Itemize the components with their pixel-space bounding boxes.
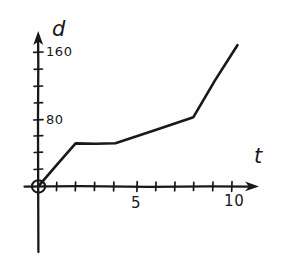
- y-tick-label-160: 160: [46, 44, 73, 59]
- x-axis-label: t: [254, 144, 263, 168]
- y-axis-group: [33, 31, 43, 252]
- graph-canvas: d t 160 80 5 10: [0, 0, 292, 277]
- hand-drawn-graph: [0, 0, 292, 277]
- y-axis-label: d: [52, 17, 66, 41]
- y-tick-label-80: 80: [46, 112, 64, 127]
- x-tick-label-10: 10: [224, 192, 245, 210]
- x-axis-group: [25, 181, 260, 191]
- data-series-line: [40, 45, 238, 185]
- x-tick-label-5: 5: [131, 194, 141, 212]
- data-polyline: [40, 45, 238, 185]
